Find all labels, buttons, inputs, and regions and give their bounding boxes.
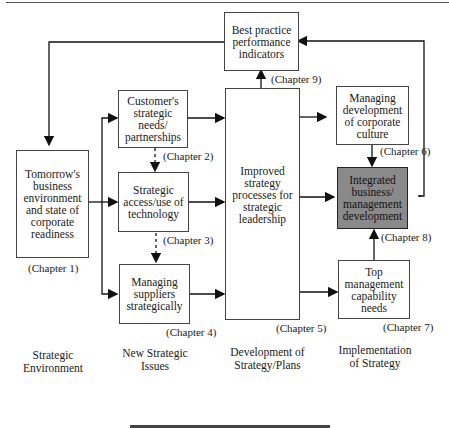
chapter-5: (Chapter 5)	[276, 322, 326, 334]
chapter-8: (Chapter 8)	[381, 231, 431, 243]
box-integrated: Integrated business/ management developm…	[337, 167, 408, 229]
box-topmgmt: Top management capability needs	[338, 260, 410, 319]
box-culture: Managing development of corporate cultur…	[336, 86, 409, 145]
chapter-9: (Chapter 9)	[271, 73, 321, 85]
column-label-issues: New Strategic Issues	[115, 347, 195, 373]
chapter-1: (Chapter 1)	[28, 262, 78, 274]
column-label-env: Strategic Environment	[18, 349, 88, 375]
chapter-6: (Chapter 6)	[380, 145, 430, 157]
chapter-4: (Chapter 4)	[166, 326, 216, 338]
column-label-dev: Development of Strategy/Plans	[225, 346, 310, 372]
column-label-impl: Implementation of Strategy	[335, 344, 415, 370]
chapter-7: (Chapter 7)	[383, 321, 433, 333]
box-tomorrow: Tomorrow's business environment and stat…	[16, 150, 89, 258]
box-customer: Customer's strategic needs/ partnerships	[118, 90, 188, 148]
box-access: Strategic access/use of technology	[118, 172, 189, 232]
chapter-3: (Chapter 3)	[163, 234, 213, 246]
chapter-2: (Chapter 2)	[163, 150, 213, 162]
box-improved: Improved strategy processes for strategi…	[225, 88, 300, 320]
box-best: Best practice performance indicators	[224, 12, 299, 71]
box-suppliers: Managing suppliers strategically	[119, 264, 190, 324]
